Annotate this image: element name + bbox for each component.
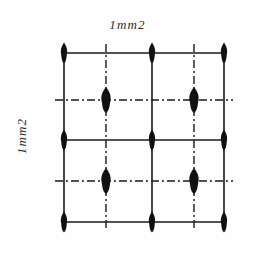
two-fold-axis-marker [149, 130, 155, 151]
symmetry-figure: 1mm2 1mm2 [0, 0, 255, 261]
lattice-diagram [0, 0, 255, 261]
lattice-axis-group [61, 43, 227, 233]
dashdot-line-group [55, 44, 233, 231]
two-fold-axis-marker-interstitial [101, 168, 110, 194]
two-fold-axis-marker [149, 212, 155, 233]
two-fold-axis-marker [61, 130, 67, 151]
two-fold-axis-marker [61, 43, 67, 64]
solid-line-group [64, 53, 224, 222]
two-fold-axis-marker-interstitial [101, 87, 110, 113]
two-fold-axis-marker [221, 43, 227, 64]
two-fold-axis-marker-interstitial [189, 87, 198, 113]
two-fold-axis-marker [221, 212, 227, 233]
two-fold-axis-marker [149, 43, 155, 64]
two-fold-axis-marker [221, 130, 227, 151]
two-fold-axis-marker-interstitial [189, 168, 198, 194]
two-fold-axis-marker [61, 212, 67, 233]
